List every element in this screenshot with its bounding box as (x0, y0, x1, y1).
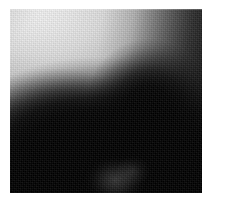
photo-smudge-secondary (10, 9, 202, 193)
page-root (0, 0, 229, 204)
grayscale-photograph (10, 9, 202, 193)
